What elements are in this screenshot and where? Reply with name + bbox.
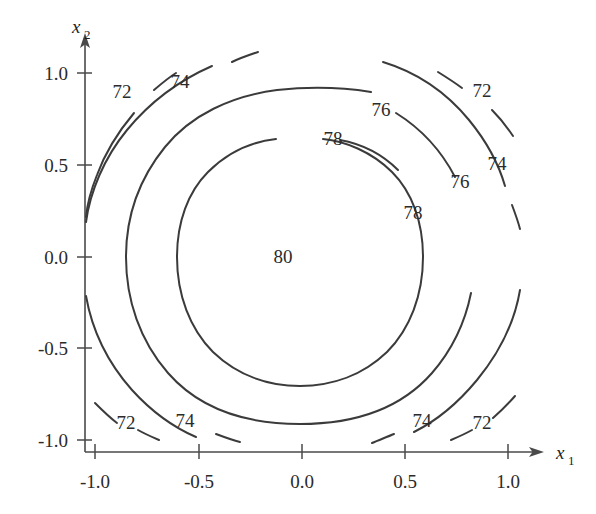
- contour-label-72-upper-left: 72: [113, 81, 132, 102]
- x-tick-label-1.0: 1.0: [496, 471, 520, 492]
- contour-label-78-top: 78: [324, 128, 343, 149]
- y-tick-label--1.0: -1.0: [38, 430, 68, 451]
- y-axis-title-base: x: [71, 16, 81, 37]
- x-axis-title-subscript: 1: [568, 453, 575, 468]
- contour-label-74-lower-right: 74: [413, 410, 433, 431]
- x-tick-label-0.0: 0.0: [290, 471, 314, 492]
- contour-label-74-right: 74: [488, 153, 508, 174]
- contour-72-stub-lower-left: [95, 403, 117, 423]
- x-axis-title-base: x: [555, 442, 565, 463]
- contour-72-arc-lower-left: [138, 430, 159, 440]
- x-tick-label--1.0: -1.0: [80, 471, 110, 492]
- contour-74-stub-right: [512, 205, 520, 229]
- contour-label-72-upper-right: 72: [473, 80, 492, 101]
- contour-72-arc-upper-left: [86, 113, 134, 217]
- y-tick-label-0.0: 0.0: [44, 247, 68, 268]
- contour-label-74-lower-left: 74: [176, 410, 196, 431]
- contour-74-stub-lower-right: [372, 434, 394, 443]
- contour-76-arc-segment: [396, 113, 455, 177]
- contour-label-80-center: 80: [274, 246, 293, 267]
- contour-level-78: [177, 139, 423, 386]
- y-tick-label-1.0: 1.0: [44, 63, 68, 84]
- contour-72-stub-lower-right: [493, 396, 515, 418]
- x-tick-label--0.5: -0.5: [184, 471, 214, 492]
- contour-label-78-right: 78: [404, 202, 423, 223]
- y-axis-title-subscript: 2: [84, 27, 91, 42]
- contour-label-72-lower-left: 72: [117, 412, 136, 433]
- contour-label-76-top: 76: [372, 99, 391, 120]
- contour-level-74: [86, 52, 520, 443]
- contour-label-72-lower-right: 72: [473, 412, 492, 433]
- contour-78-arc-main: [177, 139, 423, 386]
- y-tick-label--0.5: -0.5: [38, 338, 68, 359]
- contour-chart-canvas: 1.0 0.5 0.0 -0.5 -1.0 -1.0 -0.5 0.0 0.5 …: [0, 0, 596, 514]
- contour-74-arc-upper-left: [86, 66, 212, 222]
- contour-label-74-upper-left: 74: [171, 71, 191, 92]
- x-tick-label-0.5: 0.5: [393, 471, 417, 492]
- contour-74-stub-upper-left: [232, 52, 258, 62]
- contour-72-stub-upper-right: [438, 72, 462, 88]
- contour-label-76-right: 76: [451, 171, 470, 192]
- y-tick-label-0.5: 0.5: [44, 155, 68, 176]
- contour-74-stub-lower-left: [216, 434, 240, 442]
- contour-level-72: [86, 72, 515, 440]
- contour-72-arc-lower-right: [451, 430, 472, 440]
- contour-plot-figure: 1.0 0.5 0.0 -0.5 -1.0 -1.0 -0.5 0.0 0.5 …: [0, 0, 596, 514]
- y-axis-title: x 2: [71, 16, 91, 42]
- x-axis-title: x 1: [555, 442, 575, 468]
- contour-72-arc-upper-right: [492, 110, 513, 136]
